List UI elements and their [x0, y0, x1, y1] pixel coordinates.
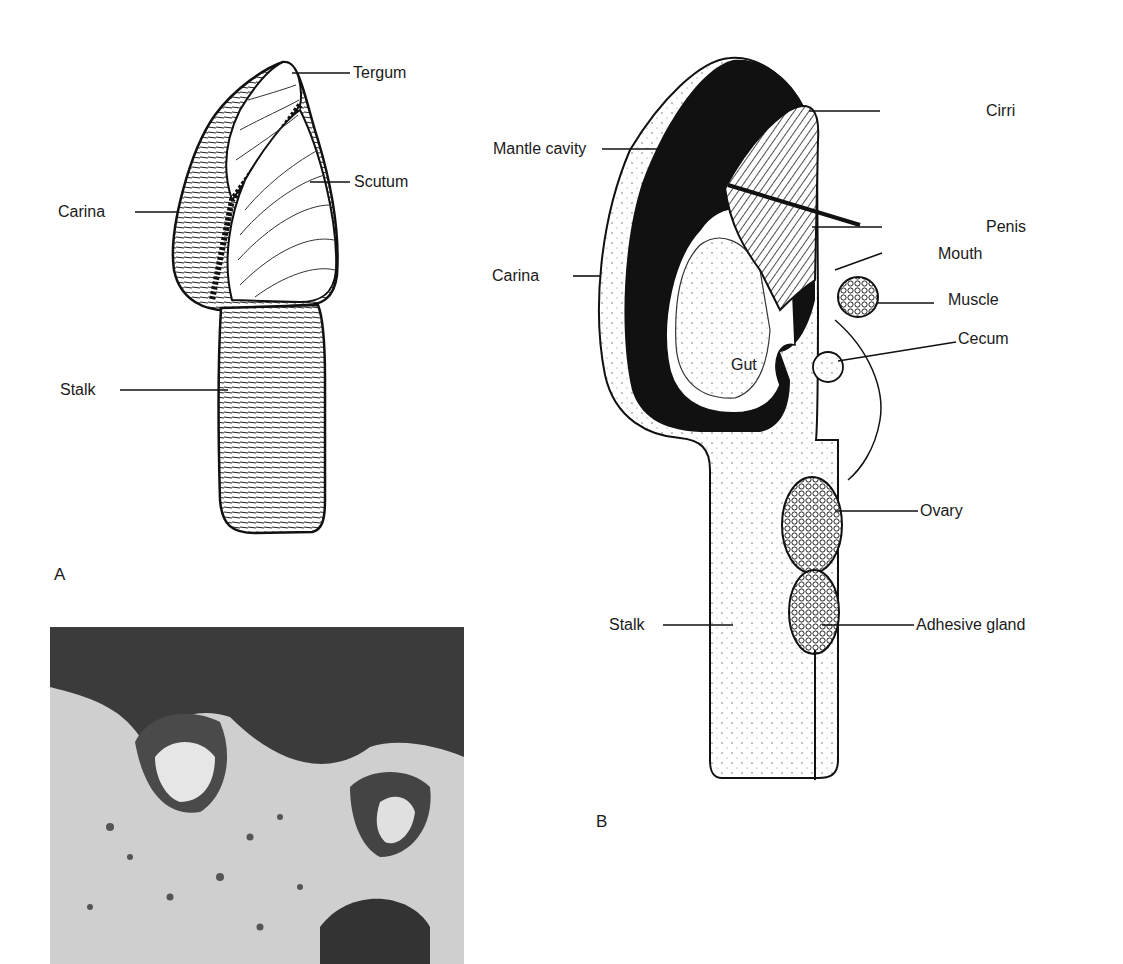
panel-letter-a: A [54, 565, 65, 585]
label-ovary: Ovary [920, 502, 963, 520]
label-scutum: Scutum [354, 173, 408, 191]
label-adhesive-gland: Adhesive gland [916, 616, 1025, 634]
label-carina-b: Carina [492, 267, 539, 285]
label-carina-a: Carina [58, 203, 105, 221]
barnacle-photograph [50, 627, 464, 964]
panel-b-drawing [573, 58, 956, 780]
label-cirri: Cirri [986, 102, 1015, 120]
label-mantle-cavity: Mantle cavity [493, 140, 586, 158]
photo-rendering [50, 627, 464, 964]
label-gut: Gut [731, 356, 757, 374]
label-mouth: Mouth [938, 245, 982, 263]
label-stalk-b: Stalk [609, 616, 645, 634]
panel-a-drawing [120, 62, 350, 533]
label-muscle: Muscle [948, 291, 999, 309]
label-penis: Penis [986, 218, 1026, 236]
label-stalk-a: Stalk [60, 381, 96, 399]
label-tergum: Tergum [353, 64, 406, 82]
label-cecum: Cecum [958, 330, 1009, 348]
panel-letter-b: B [596, 812, 607, 832]
